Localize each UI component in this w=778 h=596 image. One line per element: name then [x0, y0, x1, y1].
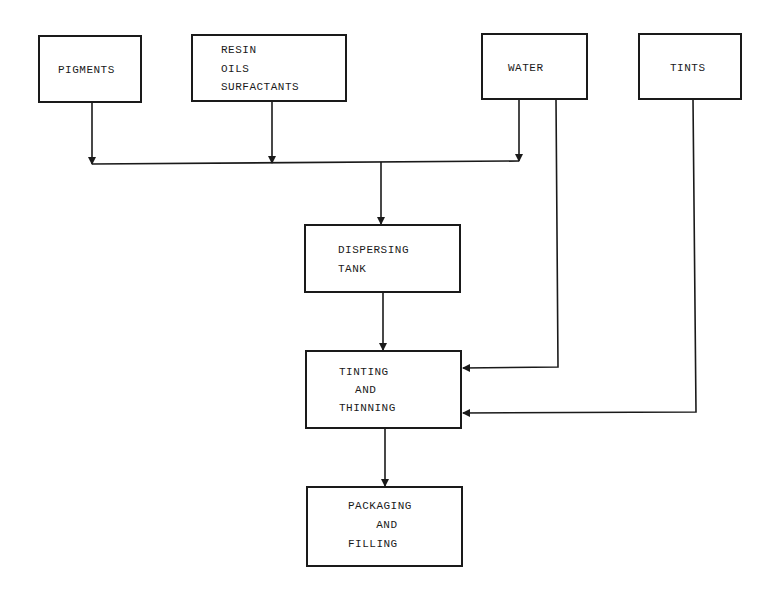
packaging-filling-box: PACKAGING AND FILLING: [306, 486, 463, 567]
surfactants-label: SURFACTANTS: [221, 78, 299, 97]
oils-label: OILS: [221, 60, 249, 79]
tints-label: TINTS: [670, 59, 706, 78]
tinting-thinning-box: TINTING AND THINNING: [305, 350, 462, 429]
dispersing-label: DISPERSING: [338, 241, 409, 260]
thinning-label: THINNING: [339, 399, 396, 418]
pigments-box: PIGMENTS: [38, 35, 142, 103]
tints-box: TINTS: [638, 33, 742, 100]
pigments-label: PIGMENTS: [58, 61, 115, 80]
packaging-label: PACKAGING: [348, 497, 412, 516]
resin-oils-surfactants-box: RESIN OILS SURFACTANTS: [191, 34, 347, 102]
water-label: WATER: [508, 59, 544, 78]
filling-label: FILLING: [348, 535, 398, 554]
tank-label: TANK: [338, 260, 366, 279]
and-label-2: AND: [362, 516, 398, 535]
tinting-label: TINTING: [339, 363, 389, 382]
resin-label: RESIN: [221, 41, 257, 60]
water-box: WATER: [481, 33, 588, 100]
and-label: AND: [348, 381, 376, 400]
dispersing-tank-box: DISPERSING TANK: [304, 224, 461, 293]
